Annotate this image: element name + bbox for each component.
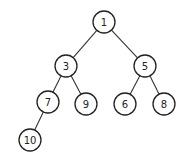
edge-3-7 bbox=[53, 76, 61, 92]
node-label: 5 bbox=[142, 61, 148, 72]
edge-1-3 bbox=[73, 30, 97, 57]
tree-node-9: 9 bbox=[75, 93, 97, 115]
node-label: 8 bbox=[161, 99, 167, 110]
node-label: 6 bbox=[122, 99, 128, 110]
edges bbox=[35, 30, 159, 130]
tree-node-1: 1 bbox=[93, 11, 115, 33]
edge-3-9 bbox=[71, 76, 81, 95]
tree-diagram: 1 3 5 7 9 6 8 10 bbox=[0, 0, 187, 161]
edge-7-10 bbox=[35, 112, 44, 130]
node-label: 9 bbox=[83, 99, 89, 110]
edge-5-6 bbox=[130, 76, 140, 95]
tree-node-8: 8 bbox=[153, 93, 175, 115]
nodes: 1 3 5 7 9 6 8 10 bbox=[19, 11, 175, 151]
tree-node-6: 6 bbox=[114, 93, 136, 115]
node-label: 1 bbox=[101, 17, 107, 28]
tree-node-5: 5 bbox=[134, 55, 156, 77]
edge-1-5 bbox=[111, 30, 137, 58]
tree-node-10: 10 bbox=[19, 129, 41, 151]
node-label: 7 bbox=[45, 97, 51, 108]
edge-5-8 bbox=[150, 76, 159, 94]
tree-node-3: 3 bbox=[55, 55, 77, 77]
node-label: 3 bbox=[63, 61, 69, 72]
node-label: 10 bbox=[24, 135, 37, 146]
tree-node-7: 7 bbox=[37, 91, 59, 113]
